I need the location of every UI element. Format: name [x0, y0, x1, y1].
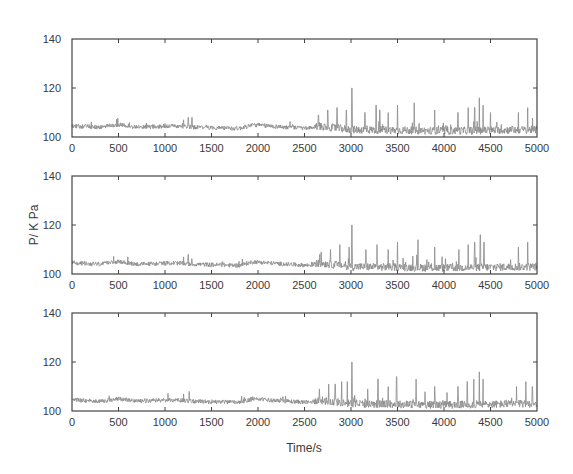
x-tick-label: 1000	[153, 142, 177, 154]
y-tick-label: 100	[43, 131, 61, 143]
x-tick-label: 4000	[432, 142, 456, 154]
x-tick-label: 1500	[199, 279, 223, 291]
x-tick-label: 2000	[246, 416, 270, 428]
y-tick-label: 120	[43, 219, 61, 231]
x-axis-title: Time/s	[286, 441, 322, 455]
chart-panel-3: 0500100015002000250030003500400045005000…	[43, 307, 550, 428]
x-tick-label: 1000	[153, 416, 177, 428]
figure: 0500100015002000250030003500400045005000…	[0, 0, 573, 474]
x-tick-label: 3000	[339, 142, 363, 154]
x-tick-label: 0	[69, 279, 75, 291]
y-axis-title: P/ K Pa	[27, 204, 41, 245]
chart-panel-1: 0500100015002000250030003500400045005000…	[43, 33, 550, 154]
x-tick-label: 2000	[246, 279, 270, 291]
plot-frame	[72, 39, 537, 137]
x-tick-label: 1500	[199, 142, 223, 154]
x-tick-label: 3000	[339, 279, 363, 291]
data-series-line	[72, 225, 537, 272]
x-tick-label: 4000	[432, 416, 456, 428]
chart-panel-2: 0500100015002000250030003500400045005000…	[43, 170, 550, 291]
x-tick-label: 500	[109, 142, 127, 154]
x-tick-label: 2500	[292, 279, 316, 291]
x-tick-label: 1000	[153, 279, 177, 291]
x-tick-label: 4500	[478, 416, 502, 428]
data-series-line	[72, 88, 537, 135]
x-tick-label: 0	[69, 416, 75, 428]
x-tick-label: 5000	[525, 416, 549, 428]
x-tick-label: 3500	[385, 416, 409, 428]
data-series-line	[72, 362, 537, 409]
y-tick-label: 140	[43, 33, 61, 45]
x-tick-label: 4500	[478, 142, 502, 154]
x-tick-label: 2000	[246, 142, 270, 154]
y-tick-label: 100	[43, 405, 61, 417]
x-tick-label: 5000	[525, 279, 549, 291]
x-tick-label: 0	[69, 142, 75, 154]
y-tick-label: 140	[43, 307, 61, 319]
x-tick-label: 4000	[432, 279, 456, 291]
x-tick-label: 2500	[292, 142, 316, 154]
x-tick-label: 2500	[292, 416, 316, 428]
x-tick-label: 1500	[199, 416, 223, 428]
x-tick-label: 3000	[339, 416, 363, 428]
y-tick-label: 100	[43, 268, 61, 280]
x-tick-label: 5000	[525, 142, 549, 154]
plot-frame	[72, 176, 537, 274]
x-tick-label: 4500	[478, 279, 502, 291]
x-tick-label: 500	[109, 416, 127, 428]
x-tick-label: 3500	[385, 279, 409, 291]
y-tick-label: 120	[43, 356, 61, 368]
x-tick-label: 3500	[385, 142, 409, 154]
x-tick-label: 500	[109, 279, 127, 291]
y-tick-label: 120	[43, 82, 61, 94]
y-tick-label: 140	[43, 170, 61, 182]
